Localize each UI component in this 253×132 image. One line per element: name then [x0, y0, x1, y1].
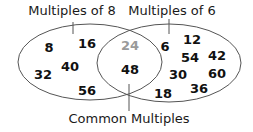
number-60: 60 [208, 66, 226, 81]
number-54: 54 [181, 50, 199, 65]
label-multiples-of-6: Multiples of 6 [128, 3, 215, 18]
number-40: 40 [61, 59, 79, 74]
number-56: 56 [78, 83, 96, 98]
left-only-numbers: 816403256 [34, 36, 96, 98]
number-24: 24 [121, 38, 139, 53]
number-8: 8 [44, 40, 53, 55]
number-30: 30 [169, 67, 187, 82]
number-48: 48 [121, 62, 139, 77]
label-common-multiples: Common Multiples [68, 111, 189, 126]
number-42: 42 [208, 48, 226, 63]
right-only-numbers: 612544230601836 [154, 32, 226, 101]
number-12: 12 [183, 32, 201, 47]
label-multiples-of-8: Multiples of 8 [28, 3, 115, 18]
number-18: 18 [154, 86, 172, 101]
number-16: 16 [78, 36, 96, 51]
number-36: 36 [190, 81, 208, 96]
number-32: 32 [34, 67, 52, 82]
venn-diagram: Multiples of 8 Multiples of 6 Common Mul… [0, 0, 253, 132]
number-6: 6 [160, 39, 169, 54]
intersection-numbers: 2448 [121, 38, 139, 77]
